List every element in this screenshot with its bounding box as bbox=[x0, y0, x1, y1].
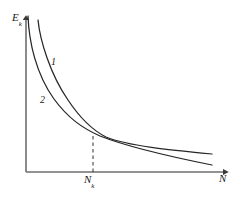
y-axis-label-main: E bbox=[12, 11, 19, 23]
y-axis-label: Ek bbox=[12, 12, 22, 26]
plot-canvas bbox=[0, 0, 237, 197]
x-tick-label-subscript: k bbox=[91, 182, 94, 190]
y-axis-label-subscript: k bbox=[19, 20, 22, 28]
figure-container: Ek N Nk 1 2 bbox=[0, 0, 237, 197]
x-axis-label: N bbox=[219, 173, 226, 184]
curve-label-1: 1 bbox=[51, 57, 56, 67]
x-tick-label-nk: Nk bbox=[84, 174, 94, 188]
curve-series-1 bbox=[38, 20, 212, 154]
curve-label-2: 2 bbox=[40, 95, 45, 105]
curve-series-2 bbox=[28, 16, 212, 165]
x-axis-label-main: N bbox=[219, 172, 226, 184]
